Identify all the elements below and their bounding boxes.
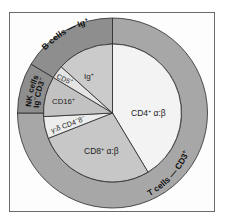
label-cd16: CD16+ xyxy=(52,96,75,106)
lymphocyte-donut-chart: CD4+ α:β CD8+ α:β γ:δ CD4−8− CD16+ CD5+ … xyxy=(0,0,225,223)
